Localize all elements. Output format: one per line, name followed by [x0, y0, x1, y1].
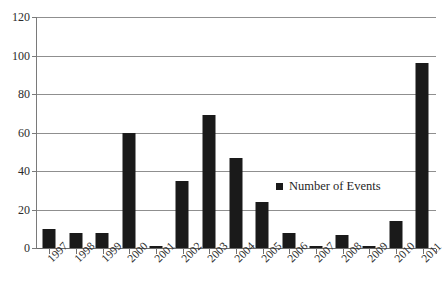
bar-slot: [303, 17, 329, 248]
y-tick-label-120: 120: [0, 11, 30, 23]
bar: [123, 133, 136, 249]
bar-slot: [143, 17, 169, 248]
bar: [43, 229, 56, 248]
bar-slot: [63, 17, 89, 248]
bar-slot: [383, 17, 409, 248]
y-tick-label-0: 0: [0, 242, 30, 254]
bar: [256, 202, 269, 248]
y-tick-label-40: 40: [0, 165, 30, 177]
bar-slot: [36, 17, 62, 248]
bar-slot: [196, 17, 222, 248]
bar: [69, 233, 82, 248]
bar-slot: [89, 17, 115, 248]
bar: [203, 115, 216, 248]
x-tick-mark-end: [436, 249, 437, 254]
y-tick-label-100: 100: [0, 50, 30, 62]
y-tick-label-20: 20: [0, 204, 30, 216]
bar: [96, 233, 109, 248]
bar-slot: [223, 17, 249, 248]
legend-label-number-of-events: Number of Events: [289, 180, 381, 193]
y-tick-label-80: 80: [0, 88, 30, 100]
bar: [389, 221, 402, 248]
bar-chart: 120 100 80 60 40 20 0 199719981999200020…: [0, 0, 445, 300]
bar-slot: [249, 17, 275, 248]
y-tick-label-60: 60: [0, 127, 30, 139]
bars-layer: [36, 17, 436, 248]
bar-slot: [356, 17, 382, 248]
bar-slot: [329, 17, 355, 248]
bar: [229, 158, 242, 248]
legend-square-marker-icon: [276, 183, 283, 190]
chart-legend: Number of Events: [276, 180, 381, 193]
bar-slot: [276, 17, 302, 248]
bar: [176, 181, 189, 248]
bar-slot: [169, 17, 195, 248]
bar-slot: [116, 17, 142, 248]
bar-slot: [409, 17, 435, 248]
bar: [336, 235, 349, 248]
bar: [416, 63, 429, 248]
